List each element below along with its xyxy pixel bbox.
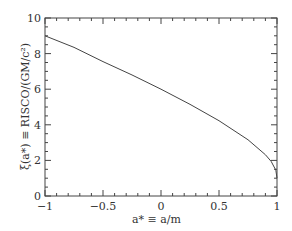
svg-text:0.5: 0.5 <box>210 200 228 213</box>
chart: −1−0.500.510246810 a* ≡ a/m ξ(a*) ≡ RISC… <box>0 0 292 231</box>
svg-text:4: 4 <box>34 119 41 132</box>
svg-text:0: 0 <box>158 200 165 213</box>
plot-area: −1−0.500.510246810 <box>0 0 292 231</box>
svg-text:2: 2 <box>34 154 41 167</box>
x-axis-label: a* ≡ a/m <box>132 213 181 226</box>
y-axis-label: ξ(a*) ≡ RISCO/(GM/c²) <box>19 22 32 192</box>
svg-text:0: 0 <box>34 190 41 203</box>
svg-text:6: 6 <box>34 83 41 96</box>
svg-text:−0.5: −0.5 <box>90 200 117 213</box>
svg-text:1: 1 <box>274 200 281 213</box>
svg-text:8: 8 <box>34 48 41 61</box>
